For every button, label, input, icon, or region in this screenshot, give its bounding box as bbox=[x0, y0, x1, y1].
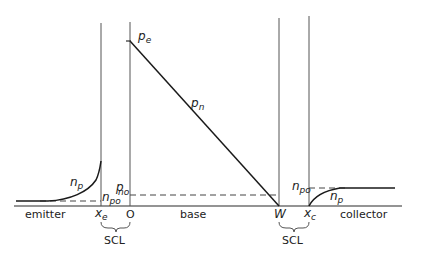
collector-npo-label: npo bbox=[292, 179, 311, 195]
collector-np-label: np bbox=[330, 189, 344, 205]
xe-label: xe bbox=[94, 206, 108, 222]
base-pn-line bbox=[130, 41, 279, 206]
pe-label: pe bbox=[137, 29, 152, 45]
pn-label: pn bbox=[190, 96, 205, 112]
emitter-scl-label: SCL bbox=[104, 234, 126, 247]
origin-label: O bbox=[126, 208, 135, 221]
emitter-np-label: np bbox=[70, 175, 84, 191]
emitter-region-label: emitter bbox=[25, 208, 66, 221]
xc-label: xc bbox=[303, 206, 316, 222]
collector-scl-brace bbox=[279, 222, 309, 232]
collector-scl-label: SCL bbox=[282, 234, 304, 247]
base-pno-label: pno bbox=[115, 180, 130, 197]
base-region-label: base bbox=[180, 208, 206, 221]
emitter-scl-brace bbox=[101, 222, 130, 232]
collector-np-curve bbox=[309, 188, 395, 206]
emitter-np-curve bbox=[16, 161, 101, 201]
collector-region-label: collector bbox=[340, 208, 388, 221]
w-label: W bbox=[274, 207, 287, 221]
transistor-carrier-diagram: pe pn np npo pno npo np emitter xe O bas… bbox=[0, 0, 421, 255]
